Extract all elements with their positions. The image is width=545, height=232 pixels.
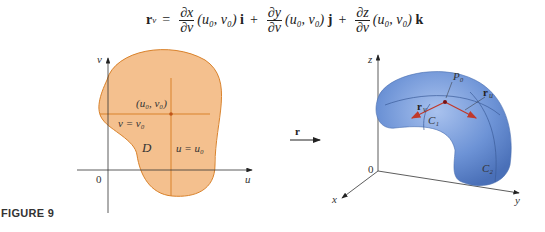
point-u0-v0 [169,112,173,116]
svg-text:v: v [423,105,427,114]
svg-text:z: z [367,53,373,65]
svg-text:u: u [489,91,493,100]
svg-text:v = v₀: v = v₀ [118,117,145,129]
svg-text:u: u [245,173,251,185]
svg-text:y: y [514,194,520,206]
parameter-domain-diagram: v u 0 (u₀, v₀) v = v₀ u = u₀ D [77,50,252,213]
svg-text:r: r [483,86,488,98]
svg-text:C₂: C₂ [482,162,493,174]
point-p0 [443,100,447,104]
figure-canvas: v u 0 (u₀, v₀) v = v₀ u = u₀ D r z y x 0… [0,0,545,232]
x-axis [342,171,378,198]
figure-caption: FIGURE 9 [1,207,54,219]
svg-text:r: r [295,125,300,137]
svg-text:P₀: P₀ [452,70,464,82]
mapping-arrow: r [290,125,320,140]
svg-text:u = u₀: u = u₀ [176,142,204,154]
svg-text:v: v [97,53,102,65]
svg-text:(u₀, v₀): (u₀, v₀) [136,97,167,110]
svg-text:D: D [141,140,152,155]
svg-text:C₁: C₁ [428,114,439,126]
svg-text:r: r [417,100,422,112]
svg-text:x: x [331,193,337,205]
svg-text:0: 0 [96,173,102,185]
svg-text:0: 0 [368,163,374,175]
parametric-surface-diagram: z y x 0 P₀ r v r u C₁ C₂ [331,53,520,206]
